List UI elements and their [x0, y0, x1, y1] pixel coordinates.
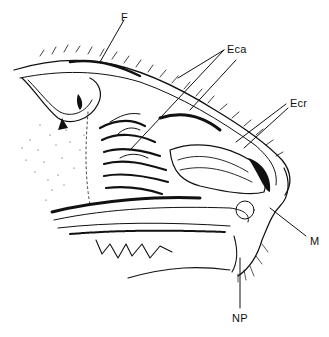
nasal-cavity-drawing	[0, 0, 329, 337]
ethmoturbinates	[100, 113, 168, 194]
anatomical-figure: F Eca Ecr M NP	[0, 0, 329, 337]
teeth	[96, 236, 237, 278]
label-M: M	[310, 236, 319, 247]
label-F: F	[121, 12, 128, 23]
leader-line-Ecr-1	[236, 104, 286, 142]
leader-line-Ecr-2	[244, 108, 288, 148]
stipple-region	[21, 124, 84, 200]
leader-line-F	[100, 20, 124, 62]
dorsal-skin-outline	[14, 45, 290, 195]
palate	[52, 198, 254, 234]
muzzle-outline	[238, 168, 288, 282]
label-NP: NP	[232, 313, 248, 324]
label-Ecr: Ecr	[290, 98, 307, 109]
cribriform-plate	[86, 112, 90, 205]
leader-line-Eca-2	[130, 50, 224, 150]
label-Eca: Eca	[227, 44, 247, 55]
leader-line-Eca-3	[190, 60, 236, 110]
leader-line-M	[270, 208, 306, 236]
maxilloturbinate	[160, 115, 270, 194]
leader-lines	[100, 20, 306, 308]
frontal-sinus	[22, 78, 100, 130]
